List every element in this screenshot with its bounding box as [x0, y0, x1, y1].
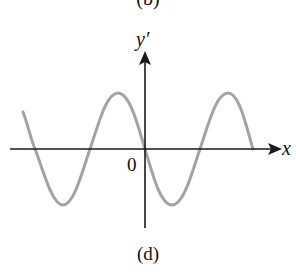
origin-label: 0	[127, 155, 137, 174]
top-caption: (b)	[0, 0, 296, 8]
figure-caption: (d)	[0, 244, 296, 263]
y-axis-label: y′	[136, 29, 149, 49]
x-axis-label: x	[282, 138, 291, 158]
